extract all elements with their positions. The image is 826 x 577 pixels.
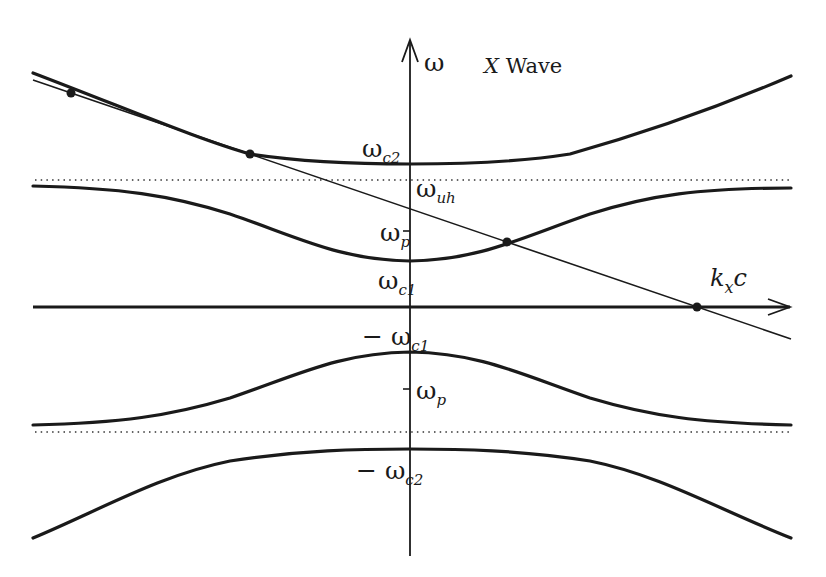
label-subscript: c1 xyxy=(398,281,416,299)
k-axis-label: kxc xyxy=(710,266,747,290)
label-subscript: c1 xyxy=(411,337,429,355)
label-subscript: uh xyxy=(436,189,455,207)
neg-omega-c1-label: − ωc1 xyxy=(362,324,429,349)
diagram-title: X Wave xyxy=(484,56,562,77)
omega-p-label: ωp xyxy=(380,220,410,245)
label-subscript: c2 xyxy=(382,149,400,167)
k-symbol: k xyxy=(710,264,725,292)
intersection-point-4 xyxy=(693,303,702,312)
label-symbol: ω xyxy=(378,266,398,295)
k-subscript: x xyxy=(725,278,734,297)
omega-c2-label: ωc2 xyxy=(362,136,400,161)
label-symbol: ω xyxy=(385,456,405,485)
label-symbol: ω xyxy=(416,376,436,405)
intersection-point-2 xyxy=(246,150,255,159)
intersection-point-3 xyxy=(503,238,512,247)
omega-uh-label: ωuh xyxy=(416,176,456,201)
omega-axis-label: ω xyxy=(424,50,444,75)
lower-middle-branch-curve xyxy=(33,352,791,425)
label-symbol: ω xyxy=(380,218,400,247)
label-symbol: ω xyxy=(416,174,436,203)
label-subscript: p xyxy=(400,233,410,251)
c-symbol: c xyxy=(734,264,747,292)
label-prefix: − xyxy=(356,456,385,485)
label-prefix: − xyxy=(362,322,391,351)
label-symbol: ω xyxy=(362,134,382,163)
omega-c1-label: ωc1 xyxy=(378,268,416,293)
neg-omega-p-label: ωp xyxy=(416,378,446,403)
upper-middle-branch-curve xyxy=(33,186,791,261)
label-subscript: c2 xyxy=(405,471,423,489)
omega-symbol: ω xyxy=(424,48,444,77)
x-wave-dispersion-diagram: ω X Wave kxc ωc2 ωuh ωp ωc1 − ωc1 ωp − ω… xyxy=(0,0,826,577)
title-x: X xyxy=(484,54,499,78)
label-symbol: ω xyxy=(391,322,411,351)
neg-omega-c2-label: − ωc2 xyxy=(356,458,423,483)
label-subscript: p xyxy=(436,391,446,409)
title-wave: Wave xyxy=(499,54,562,78)
intersection-point-1 xyxy=(67,89,76,98)
